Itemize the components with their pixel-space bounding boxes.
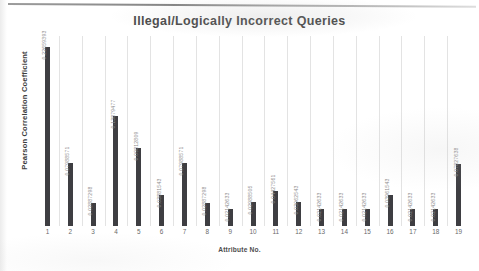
plot-area: 0.226593930.079885710.028872980.13879477… xyxy=(36,36,470,226)
bar-value-label: 0.03881543 xyxy=(156,179,162,208)
x-axis-tick: 17 xyxy=(402,228,425,240)
bar-slot: 0.03881543 xyxy=(150,36,173,226)
bar-chart: Illegal/Logically Incorrect Queries Pear… xyxy=(0,0,479,271)
bar-slot: 0.02142633 xyxy=(310,36,333,226)
bar-value-label: 0.02887298 xyxy=(87,187,93,216)
bar[interactable]: 0.02887298 xyxy=(91,203,96,226)
bar[interactable]: 0.02887298 xyxy=(205,203,210,226)
bar-slot: 0.22659393 xyxy=(36,36,59,226)
bar[interactable]: 0.02142633 xyxy=(319,209,324,226)
bar[interactable]: 0.07827638 xyxy=(456,164,461,226)
x-axis-tick: 19 xyxy=(447,228,470,240)
bar-value-label: 0.03062543 xyxy=(293,185,299,214)
bar-slot: 0.04427561 xyxy=(264,36,287,226)
x-axis-tick: 5 xyxy=(127,228,150,240)
bar-value-label: 0.22659393 xyxy=(41,30,47,59)
bar[interactable]: 0.02142633 xyxy=(228,209,233,226)
bar-slot: 0.02142633 xyxy=(402,36,425,226)
bar[interactable]: 0.09812809 xyxy=(136,148,141,226)
bar-value-label: 0.02142633 xyxy=(430,193,436,222)
x-axis-tick: 4 xyxy=(105,228,128,240)
x-axis-tick: 7 xyxy=(173,228,196,240)
bar-value-label: 0.03961543 xyxy=(384,178,390,207)
x-axis-tick: 18 xyxy=(424,228,447,240)
bar[interactable]: 0.04427561 xyxy=(273,191,278,226)
bar-value-label: 0.02142633 xyxy=(338,193,344,222)
bar-slot: 0.02988505 xyxy=(242,36,265,226)
bar-slot: 0.03961543 xyxy=(379,36,402,226)
x-axis-tick: 8 xyxy=(196,228,219,240)
bar-value-label: 0.04427561 xyxy=(270,174,276,203)
x-axis-tick: 2 xyxy=(59,228,82,240)
bar-value-label: 0.02142633 xyxy=(361,193,367,222)
bar-slot: 0.02887298 xyxy=(196,36,219,226)
bar[interactable]: 0.22659393 xyxy=(45,47,50,226)
chart-title: Illegal/Logically Incorrect Queries xyxy=(0,14,479,28)
bar[interactable]: 0.02988505 xyxy=(251,202,256,226)
x-axis-tick: 3 xyxy=(82,228,105,240)
bar-value-label: 0.02988505 xyxy=(247,186,253,215)
bar-value-label: 0.02142633 xyxy=(407,193,413,222)
bar-value-label: 0.02887298 xyxy=(201,187,207,216)
x-axis-ticks: 12345678910111213141516171819 xyxy=(36,228,470,240)
bar-slot: 0.07827638 xyxy=(447,36,470,226)
bar-slot: 0.13879477 xyxy=(105,36,128,226)
bar-value-label: 0.02142633 xyxy=(224,193,230,222)
bar[interactable]: 0.02142633 xyxy=(342,209,347,226)
bar-series: 0.226593930.079885710.028872980.13879477… xyxy=(36,36,470,226)
bar-value-label: 0.09812809 xyxy=(133,132,139,161)
bar[interactable]: 0.02142633 xyxy=(410,209,415,226)
bar-value-label: 0.07827638 xyxy=(453,148,459,177)
bar-value-label: 0.07988571 xyxy=(178,146,184,175)
bar-slot: 0.02887298 xyxy=(82,36,105,226)
bar-slot: 0.02142633 xyxy=(219,36,242,226)
x-axis-tick: 13 xyxy=(310,228,333,240)
bar[interactable]: 0.03062543 xyxy=(296,202,301,226)
x-axis-tick: 10 xyxy=(242,228,265,240)
bar-value-label: 0.07988571 xyxy=(64,146,70,175)
bar-slot: 0.09812809 xyxy=(127,36,150,226)
x-axis-tick: 9 xyxy=(219,228,242,240)
x-axis-label: Attribute No. xyxy=(0,246,479,253)
bar-slot: 0.03062543 xyxy=(287,36,310,226)
bar-slot: 0.02142633 xyxy=(424,36,447,226)
x-axis-tick: 1 xyxy=(36,228,59,240)
y-axis-label: Pearson Correlation Coefficient xyxy=(20,51,29,171)
x-axis-tick: 11 xyxy=(264,228,287,240)
x-axis-tick: 12 xyxy=(287,228,310,240)
bar-slot: 0.02142633 xyxy=(333,36,356,226)
bar-slot: 0.07988571 xyxy=(59,36,82,226)
x-axis-tick: 14 xyxy=(333,228,356,240)
bar-value-label: 0.02142633 xyxy=(316,193,322,222)
x-axis-tick: 6 xyxy=(150,228,173,240)
bar-value-label: 0.13879477 xyxy=(110,100,116,129)
x-axis-tick: 16 xyxy=(379,228,402,240)
bar[interactable]: 0.02142633 xyxy=(365,209,370,226)
x-axis-tick: 15 xyxy=(356,228,379,240)
bar[interactable]: 0.03961543 xyxy=(388,195,393,226)
bar[interactable]: 0.02142633 xyxy=(433,209,438,226)
bar[interactable]: 0.13879477 xyxy=(113,116,118,226)
bar-slot: 0.02142633 xyxy=(356,36,379,226)
bar[interactable]: 0.07988571 xyxy=(182,163,187,226)
bar-slot: 0.07988571 xyxy=(173,36,196,226)
bar[interactable]: 0.03881543 xyxy=(159,195,164,226)
bar[interactable]: 0.07988571 xyxy=(68,163,73,226)
